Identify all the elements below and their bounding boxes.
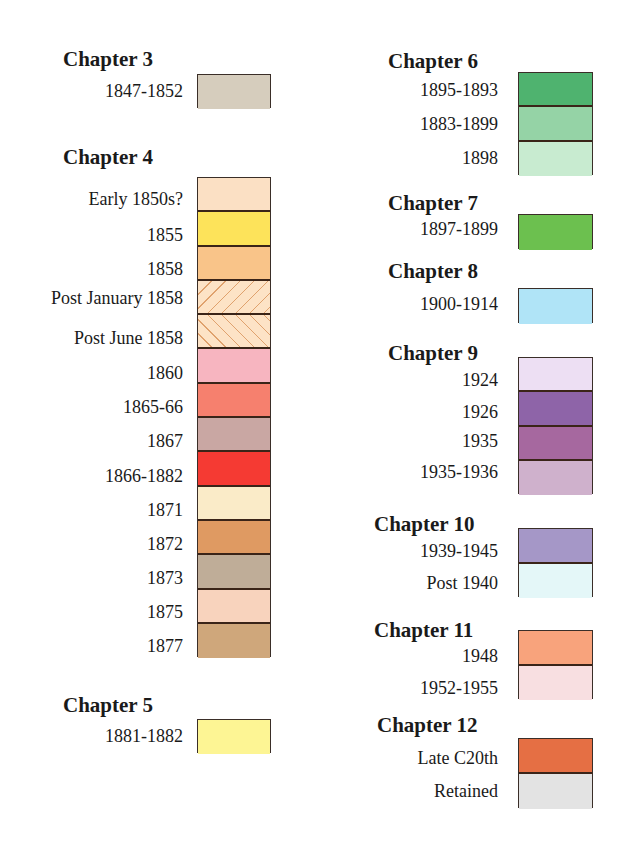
legend-label: 1924 (462, 369, 498, 391)
legend-label: Retained (434, 780, 498, 802)
chapter-heading: Chapter 7 (388, 191, 478, 215)
swatch-stack (518, 214, 593, 249)
color-swatch (198, 281, 270, 315)
color-swatch (519, 289, 592, 324)
color-swatch (519, 358, 592, 392)
color-swatch (198, 487, 270, 521)
color-swatch (198, 315, 270, 349)
swatch-stack (518, 288, 593, 323)
color-swatch (198, 418, 270, 452)
legend-label: 1881-1882 (105, 725, 183, 747)
chapter-heading: Chapter 4 (63, 145, 153, 169)
swatch-stack (197, 74, 271, 108)
color-swatch (519, 215, 592, 250)
color-swatch (198, 590, 270, 624)
color-swatch (519, 564, 592, 599)
legend-label: 1926 (462, 401, 498, 423)
color-swatch (519, 666, 592, 701)
color-swatch (519, 392, 592, 426)
color-swatch (198, 555, 270, 589)
legend-label: Post 1940 (426, 572, 498, 594)
color-swatch (198, 452, 270, 486)
legend-label: 1935 (462, 430, 498, 452)
legend-label: 1847-1852 (105, 80, 183, 102)
color-swatch (519, 142, 592, 176)
color-swatch (519, 774, 592, 809)
color-swatch (519, 529, 592, 564)
legend-label: Early 1850s? (89, 188, 183, 210)
legend-label: 1877 (147, 635, 183, 657)
legend-label: 1895-1893 (420, 79, 498, 101)
legend-label: 1897-1899 (420, 218, 498, 240)
legend-label: 1900-1914 (420, 293, 498, 315)
legend-label: 1860 (147, 362, 183, 384)
chapter-heading: Chapter 11 (374, 618, 473, 642)
color-swatch (198, 178, 270, 212)
chapter-heading: Chapter 12 (377, 713, 478, 737)
legend-label: 1939-1945 (420, 540, 498, 562)
swatch-stack (518, 72, 593, 175)
color-swatch (198, 349, 270, 383)
chapter-heading: Chapter 5 (63, 693, 153, 717)
legend-label: Post June 1858 (74, 327, 183, 349)
color-swatch (198, 384, 270, 418)
legend-label: 1948 (462, 645, 498, 667)
color-swatch (519, 739, 592, 774)
color-swatch (198, 212, 270, 246)
legend-label: Post January 1858 (51, 287, 183, 309)
color-swatch (519, 631, 592, 666)
color-swatch (198, 247, 270, 281)
legend-label: 1866-1882 (105, 465, 183, 487)
color-swatch (519, 461, 592, 495)
chapter-heading: Chapter 6 (388, 49, 478, 73)
legend-label: 1858 (147, 258, 183, 280)
legend-label: 1883-1899 (420, 113, 498, 135)
color-swatch (519, 107, 592, 141)
legend-label: Late C20th (418, 747, 498, 769)
swatch-stack (518, 630, 593, 699)
chapter-heading: Chapter 3 (63, 47, 153, 71)
swatch-stack (197, 719, 271, 753)
color-swatch (519, 427, 592, 461)
swatch-stack (518, 357, 593, 494)
color-swatch (519, 73, 592, 107)
legend-label: 1871 (147, 499, 183, 521)
legend-label: 1935-1936 (420, 461, 498, 483)
legend-label: 1855 (147, 224, 183, 246)
legend-label: 1873 (147, 567, 183, 589)
legend-label: 1952-1955 (420, 677, 498, 699)
chapter-heading: Chapter 10 (374, 512, 475, 536)
swatch-stack (197, 177, 271, 657)
legend-label: 1898 (462, 147, 498, 169)
chapter-heading: Chapter 9 (388, 341, 478, 365)
legend-label: 1865-66 (123, 396, 183, 418)
legend-label: 1872 (147, 533, 183, 555)
legend-label: 1867 (147, 430, 183, 452)
color-swatch (198, 521, 270, 555)
chapter-heading: Chapter 8 (388, 259, 478, 283)
color-swatch (198, 75, 270, 109)
swatch-stack (518, 738, 593, 808)
color-swatch (198, 624, 270, 658)
color-swatch (198, 720, 270, 754)
legend-label: 1875 (147, 601, 183, 623)
swatch-stack (518, 528, 593, 597)
